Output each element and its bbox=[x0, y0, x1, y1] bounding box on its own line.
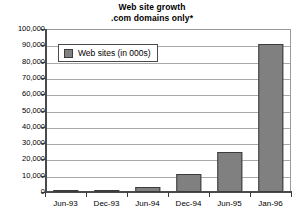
bar-slot bbox=[168, 29, 209, 192]
y-axis-tick-label: 50,000 bbox=[4, 107, 45, 115]
bar-chart: Web site growth .com domains only* 100,0… bbox=[0, 0, 304, 222]
y-axis-tick-label: 0 bbox=[4, 188, 45, 196]
x-axis-tick-label: Jun-94 bbox=[135, 199, 159, 209]
bar[interactable] bbox=[176, 174, 201, 192]
x-axis-tick-label: Jun-95 bbox=[217, 199, 241, 209]
x-axis-tick-label: Jan-96 bbox=[258, 199, 282, 209]
chart-legend: Web sites (in 000s) bbox=[58, 44, 158, 62]
chart-title: Web site growth .com domains only* bbox=[0, 2, 304, 24]
bar[interactable] bbox=[217, 152, 242, 192]
x-axis-tick-mark bbox=[291, 192, 292, 197]
chart-title-line-2: .com domains only* bbox=[0, 13, 304, 24]
x-axis-tick-mark bbox=[45, 192, 46, 197]
y-axis-tick-label: 60,000 bbox=[4, 90, 45, 98]
x-axis-tick-mark bbox=[127, 192, 128, 197]
x-axis-tick-mark bbox=[209, 192, 210, 197]
x-axis-tick-label: Dec-93 bbox=[94, 199, 120, 209]
x-axis-tick-mark bbox=[86, 192, 87, 197]
x-axis-tick-label: Jun-93 bbox=[53, 199, 77, 209]
y-axis-tick-label: 40,000 bbox=[4, 123, 45, 131]
x-axis-tick-mark bbox=[250, 192, 251, 197]
legend-label: Web sites (in 000s) bbox=[78, 48, 151, 58]
y-axis-tick-label: 30,000 bbox=[4, 139, 45, 147]
bar-slot bbox=[209, 29, 250, 192]
y-axis-tick-label: 10,000 bbox=[4, 172, 45, 180]
y-axis-tick-label: 90,000 bbox=[4, 41, 45, 49]
y-axis: 100,00090,00080,00070,00060,00050,00040,… bbox=[0, 0, 45, 222]
bar[interactable] bbox=[258, 44, 283, 192]
bar[interactable] bbox=[94, 190, 119, 192]
chart-title-line-1: Web site growth bbox=[0, 2, 304, 13]
x-axis-tick-label: Dec-94 bbox=[176, 199, 202, 209]
y-axis-tick-label: 100,000 bbox=[4, 25, 45, 33]
x-axis-tick-mark bbox=[168, 192, 169, 197]
bar[interactable] bbox=[53, 190, 78, 192]
bar[interactable] bbox=[135, 187, 160, 192]
legend-swatch-icon bbox=[64, 49, 73, 58]
bar-slot bbox=[250, 29, 291, 192]
y-axis-tick-label: 20,000 bbox=[4, 155, 45, 163]
y-axis-tick-label: 70,000 bbox=[4, 74, 45, 82]
y-axis-tick-label: 80,000 bbox=[4, 58, 45, 66]
